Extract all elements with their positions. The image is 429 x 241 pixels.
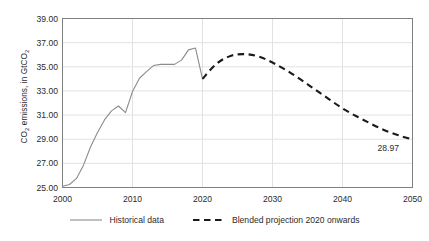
legend-label-blended-projection: Blended projection 2020 onwards: [232, 215, 360, 225]
plot-border: [63, 19, 413, 188]
legend-label-historical-data: Historical data: [109, 215, 163, 225]
legend-item-historical-data[interactable]: Historical data: [69, 215, 163, 225]
gridlines: [63, 19, 413, 188]
co2-emissions-line-chart: CO2 emissions, in GtCO2 25.0027.0029.003…: [0, 0, 429, 241]
legend-swatch-dashed-line: [192, 215, 226, 225]
legend-item-blended-projection[interactable]: Blended projection 2020 onwards: [192, 215, 360, 225]
legend-swatch-solid-line: [69, 215, 103, 225]
plot-area: [0, 0, 429, 241]
endpoint-value-label: 28.97: [378, 143, 400, 153]
chart-legend: Historical data Blended projection 2020 …: [0, 215, 429, 225]
